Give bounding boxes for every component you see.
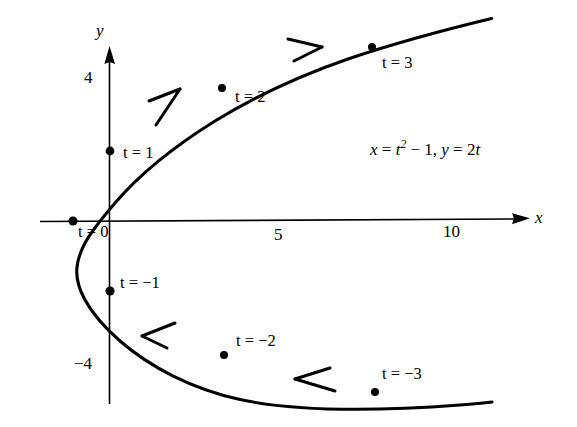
equation-t-tail: t xyxy=(475,140,480,159)
parametric-curve xyxy=(77,19,492,410)
direction-arrow-upper-left xyxy=(149,89,180,125)
equation-equals-1: = xyxy=(378,140,396,159)
label-t-equals-0: t = 0 xyxy=(78,224,108,241)
equation-x-symbol: x xyxy=(370,140,378,159)
label-t-equals-1: t = 1 xyxy=(123,145,153,162)
equation-annotation: x = t2 − 1, y = 2t xyxy=(370,141,480,158)
direction-arrow-upper-right xyxy=(288,39,322,61)
label-t-equals-minus-3: t = −3 xyxy=(382,366,422,383)
label-t-equals-2: t = 2 xyxy=(235,89,265,106)
point-t-minus-3 xyxy=(371,388,379,396)
label-t-equals-minus-1: t = −1 xyxy=(120,275,160,292)
label-t-equals-minus-2: t = −2 xyxy=(236,333,276,350)
point-t-minus-2 xyxy=(220,351,228,359)
equation-minus-one: − 1, xyxy=(406,140,441,159)
y-axis-label: y xyxy=(96,22,104,39)
x-tick-label-10: 10 xyxy=(443,223,460,240)
point-t-1 xyxy=(106,147,115,156)
x-tick-label-5: 5 xyxy=(274,226,283,243)
label-t-equals-3: t = 3 xyxy=(382,55,412,72)
direction-arrow-lower-left xyxy=(142,323,175,348)
y-tick-label-4: 4 xyxy=(84,69,93,86)
equation-y-symbol: y xyxy=(441,140,449,159)
equation-equals-2: = 2 xyxy=(449,140,476,159)
point-t-3 xyxy=(368,43,376,51)
parametric-plot-figure: x y 4 −4 5 10 t = 3 t = 2 t = 1 t = 0 t … xyxy=(0,0,577,427)
point-t-2 xyxy=(218,84,226,92)
y-tick-label-minus-4: −4 xyxy=(74,355,92,372)
point-t-0 xyxy=(68,216,77,225)
point-t-minus-1 xyxy=(105,286,114,295)
direction-arrow-lower-right xyxy=(295,368,335,391)
x-axis-label: x xyxy=(535,209,543,226)
